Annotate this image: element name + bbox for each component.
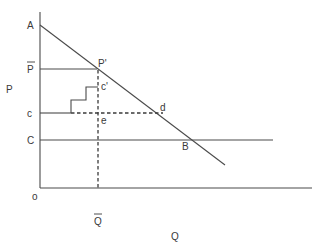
- label-Q-bar: Q: [94, 216, 102, 227]
- y-axis-label: P: [6, 84, 13, 95]
- label-c-prime: c': [101, 81, 108, 92]
- label-P-prime: P': [98, 58, 107, 69]
- label-d: d: [160, 102, 166, 113]
- label-C-upper: C: [27, 135, 34, 146]
- label-A: A: [27, 20, 34, 31]
- economics-diagram: A P P c C o P' c' e d B Q Q: [0, 0, 316, 247]
- demand-line: [40, 25, 225, 165]
- staircase-cost-curve: [71, 87, 98, 113]
- x-axis-label: Q: [171, 231, 179, 242]
- label-P-bar: P: [27, 64, 34, 75]
- label-B: B: [182, 141, 189, 152]
- label-c-lower: c: [27, 108, 32, 119]
- origin-label: o: [32, 191, 38, 202]
- label-e: e: [101, 115, 107, 126]
